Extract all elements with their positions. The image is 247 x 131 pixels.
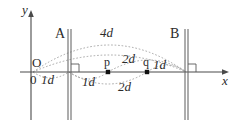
- arc-2d-lower-label: 2d: [118, 80, 131, 93]
- y-axis-arrowhead: [28, 10, 34, 17]
- plate-a: [68, 29, 71, 120]
- y-axis-label: y: [22, 3, 28, 16]
- plate-b-right-angle-marker: [188, 64, 196, 72]
- plate-b: [185, 29, 188, 120]
- point-p-label: p: [104, 56, 110, 68]
- zero-label: 0: [30, 73, 37, 86]
- plate-a-right-angle-marker: [71, 64, 79, 72]
- arc-1d-left-label: 1d: [41, 73, 54, 86]
- arc-1d-middle-label: 1d: [82, 75, 95, 88]
- plate-a-label: A: [55, 27, 65, 41]
- arc-1d-right-label: 1d: [153, 58, 166, 71]
- axes: [20, 14, 224, 120]
- point-q-marker: [145, 70, 149, 74]
- point-p-marker: [106, 70, 110, 74]
- plate-b-label: B: [170, 27, 179, 41]
- origin-label: O: [32, 56, 41, 69]
- arc-4d-label: 4d: [100, 26, 113, 39]
- point-q-label: q: [143, 56, 149, 68]
- x-axis-label: x: [222, 74, 228, 87]
- arc-2d-upper-label: 2d: [122, 52, 135, 65]
- figure-canvas: y x O 0 A B p q 4d 2d 2d 1d 1d 1d: [0, 0, 247, 131]
